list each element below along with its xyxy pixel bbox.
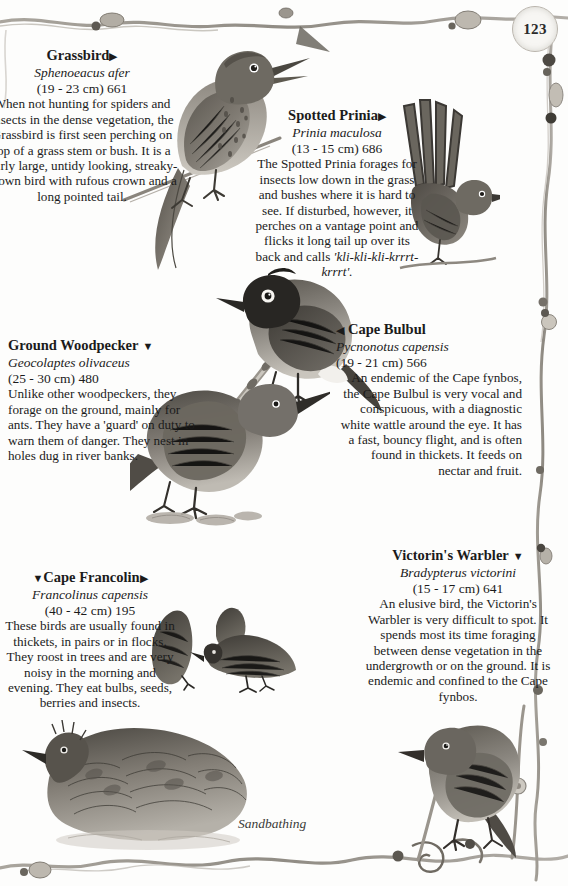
species-latin-spotted-prinia: Prinia maculosa: [252, 125, 422, 141]
direction-marker-right-icon: ▶: [140, 572, 148, 584]
species-description-cape-francolin: These birds are usually found in thicket…: [2, 618, 178, 711]
victorins-warbler-illustration: [396, 700, 546, 865]
species-call-note: 'kli-kli-kli-krrrt-krrrt'.: [321, 249, 418, 279]
species-heading-cape-bulbul: ◀ Cape Bulbul: [336, 320, 522, 339]
cape-francolin-sandbathing-illustration: [8, 706, 258, 851]
species-latin-cape-francolin: Francolinus capensis: [2, 587, 178, 603]
species-description-spotted-prinia: The Spotted Prinia forages for insects l…: [252, 156, 422, 280]
species-name-victorins-warbler: Victorin's Warbler: [392, 547, 508, 563]
species-entry-victorins-warbler: Victorin's Warbler ▼ Bradypterus victori…: [362, 546, 554, 704]
species-heading-ground-woodpecker: Ground Woodpecker ▼: [8, 336, 198, 355]
direction-marker-right-icon: ▶: [378, 110, 386, 122]
species-heading-spotted-prinia: Spotted Prinia▶: [252, 106, 422, 125]
species-heading-victorins-warbler: Victorin's Warbler ▼: [362, 546, 554, 565]
species-measurement-cape-francolin: (40 - 42 cm) 195: [2, 603, 178, 619]
species-entry-ground-woodpecker: Ground Woodpecker ▼ Geocolaptes olivaceu…: [8, 336, 198, 463]
species-description-cape-bulbul: An endemic of the Cape fynbos, the Cape …: [336, 370, 522, 478]
species-description-victorins-warbler: An elusive bird, the Victorin's Warbler …: [362, 596, 554, 704]
species-latin-grassbird: Sphenoeacus afer: [0, 65, 178, 81]
species-entry-spotted-prinia: Spotted Prinia▶ Prinia maculosa (13 - 15…: [252, 106, 422, 280]
species-measurement-ground-woodpecker: (25 - 30 cm) 480: [8, 371, 198, 387]
direction-marker-right-icon: ▶: [109, 50, 117, 62]
species-name-spotted-prinia: Spotted Prinia: [288, 107, 378, 123]
species-heading-grassbird: Grassbird▶: [0, 46, 178, 65]
field-guide-page: 123: [0, 0, 568, 886]
species-name-grassbird: Grassbird: [47, 47, 110, 63]
direction-marker-down-icon: ▼: [513, 550, 524, 562]
species-entry-grassbird: Grassbird▶ Sphenoeacus afer (19 - 23 cm)…: [0, 46, 178, 204]
species-measurement-spotted-prinia: (13 - 15 cm) 686: [252, 141, 422, 157]
species-entry-cape-francolin: ▼Cape Francolin▶ Francolinus capensis (4…: [2, 568, 178, 711]
species-entry-cape-bulbul: ◀ Cape Bulbul Pycnonotus capensis (19 - …: [336, 320, 522, 478]
species-description-ground-woodpecker: Unlike other woodpeckers, they forage on…: [8, 386, 198, 463]
species-description-text: The Spotted Prinia forages for insects l…: [256, 156, 419, 264]
species-latin-victorins-warbler: Bradypterus victorini: [362, 565, 554, 581]
species-name-cape-francolin: Cape Francolin: [43, 569, 139, 585]
page-number: 123: [523, 21, 547, 38]
direction-marker-down-icon: ▼: [32, 572, 43, 584]
species-latin-ground-woodpecker: Geocolaptes olivaceus: [8, 355, 198, 371]
species-heading-cape-francolin: ▼Cape Francolin▶: [2, 568, 178, 587]
species-name-ground-woodpecker: Ground Woodpecker: [8, 337, 138, 353]
page-number-badge: 123: [512, 6, 558, 52]
species-description-text: An endemic of the Cape fynbos, the Cape …: [341, 370, 522, 478]
species-measurement-cape-bulbul: (19 - 21 cm) 566: [336, 355, 522, 371]
direction-marker-left-icon: ◀: [336, 324, 344, 336]
direction-marker-down-icon: ▼: [142, 340, 153, 352]
species-measurement-victorins-warbler: (15 - 17 cm) 641: [362, 581, 554, 597]
species-name-cape-bulbul: Cape Bulbul: [348, 321, 426, 337]
species-measurement-grassbird: (19 - 23 cm) 661: [0, 81, 178, 97]
species-latin-cape-bulbul: Pycnonotus capensis: [336, 339, 522, 355]
sandbathing-caption: Sandbathing: [238, 816, 306, 832]
species-description-grassbird: When not hunting for spiders and insects…: [0, 96, 178, 204]
